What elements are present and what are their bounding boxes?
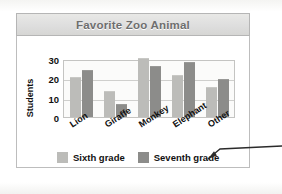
legend-label: Sixth grade	[73, 152, 125, 163]
bar-monkey-sixth	[138, 58, 149, 117]
legend-swatch-icon	[57, 152, 68, 163]
bar-elephant-sixth	[172, 75, 183, 117]
y-axis-title: Students	[23, 67, 37, 129]
legend-swatch-icon	[138, 152, 149, 163]
bar-other-sixth	[206, 87, 217, 117]
y-axis-tick-label: 30	[37, 56, 59, 66]
chart-card: Favorite Zoo Animal Students 3020100 Lio…	[16, 13, 250, 168]
plot-area	[63, 60, 235, 118]
y-axis-ticks: 3020100	[37, 61, 59, 118]
bar-group	[70, 61, 93, 117]
legend-item-seventh-grade: Seventh grade	[138, 152, 219, 163]
y-axis-tick-label: 20	[37, 76, 59, 86]
scanned-page: Favorite Zoo Animal Students 3020100 Lio…	[0, 0, 282, 194]
y-axis-title-label: Students	[25, 79, 35, 118]
x-axis-labels: LionGiraffeMonkeyElephantOther	[63, 119, 235, 153]
legend-item-sixth-grade: Sixth grade	[57, 152, 125, 163]
y-axis-tick-label: 10	[37, 95, 59, 105]
bar-groups	[64, 61, 234, 117]
plot-wrapper: Students 3020100 LionGiraffeMonkeyElepha…	[17, 37, 249, 168]
legend-label: Seventh grade	[154, 152, 219, 163]
bar-lion-sixth	[70, 77, 81, 117]
chart-legend: Sixth gradeSeventh grade	[57, 149, 243, 165]
y-axis-tick-label: 0	[37, 114, 59, 124]
page-title: Favorite Zoo Animal	[76, 19, 190, 31]
chart-title-bar: Favorite Zoo Animal	[16, 13, 250, 36]
